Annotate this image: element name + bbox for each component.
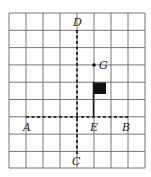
label-e: E — [89, 121, 98, 134]
label-a: A — [22, 121, 31, 134]
point-g — [92, 63, 96, 67]
label-g: G — [99, 59, 108, 72]
label-c: C — [72, 155, 81, 168]
grid-diagram: D G A E B C — [0, 0, 151, 177]
label-b: B — [121, 121, 130, 134]
label-d: D — [72, 16, 82, 29]
